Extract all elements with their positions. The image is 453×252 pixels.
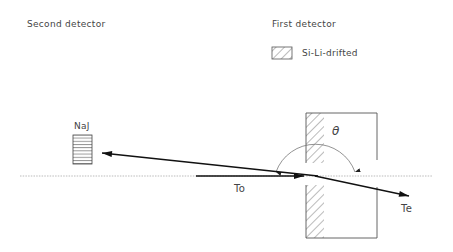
si-li-lower-region [306, 185, 324, 238]
si-li-upper-region [306, 113, 324, 163]
legend-hatch-swatch [272, 47, 292, 59]
diagram-canvas [0, 0, 453, 252]
naj-detector [73, 135, 92, 164]
outgoing-particle-arrow [315, 176, 409, 196]
